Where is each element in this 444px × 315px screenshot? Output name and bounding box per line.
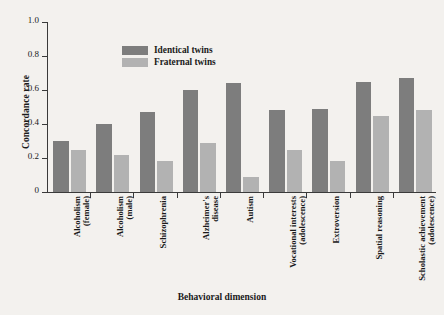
- legend-item-fraternal-twins: Fraternal twins: [122, 57, 216, 67]
- chart-legend: Identical twins Fraternal twins: [122, 45, 216, 69]
- plot-area: 00.20.40.60.81.0 Identical twins Fratern…: [47, 22, 436, 192]
- legend-label-fraternal-twins: Fraternal twins: [154, 57, 216, 67]
- bar-group: [393, 22, 436, 192]
- x-axis-title: Behavioral dimension: [0, 292, 444, 302]
- y-axis-tick-label: 0.6: [28, 83, 39, 93]
- bar-identical: [399, 78, 415, 192]
- bar-group: [47, 22, 90, 192]
- bar-fraternal: [287, 150, 303, 193]
- bar-group: [306, 22, 349, 192]
- bar-group: [350, 22, 393, 192]
- x-axis-category-label: Extroversion: [332, 196, 341, 284]
- x-axis-category-label: Alzheimer's disease: [202, 196, 221, 284]
- bar-identical: [53, 141, 69, 192]
- y-axis-tick-label: 0: [35, 185, 40, 195]
- twin-concordance-bar-chart: Concordance rate 00.20.40.60.81.0 Identi…: [0, 0, 444, 315]
- y-axis-tick-label: 0.4: [28, 117, 39, 127]
- bar-group: [220, 22, 263, 192]
- x-axis-category-label: Spatial reasoning: [375, 196, 384, 284]
- x-axis-line: [47, 192, 436, 193]
- x-axis-category-labels: Alcoholism (female)Alcoholism (male)Schi…: [47, 196, 436, 284]
- bar-fraternal: [71, 150, 87, 193]
- bar-fraternal: [114, 155, 130, 192]
- bar-fraternal: [157, 161, 173, 192]
- y-axis-tick: 0: [42, 192, 47, 193]
- x-axis-category-label: Vocational interests (adolescence): [289, 196, 308, 284]
- bar-identical: [312, 109, 328, 192]
- bar-identical: [269, 110, 285, 192]
- bar-fraternal: [243, 177, 259, 192]
- y-axis-tick-label: 0.8: [28, 49, 39, 59]
- legend-swatch-fraternal-twins: [122, 58, 148, 67]
- bar-series-container: [47, 22, 436, 192]
- legend-label-identical-twins: Identical twins: [154, 45, 213, 55]
- x-axis-category-label: Autism: [246, 196, 255, 284]
- x-axis-category-label: Scholastic achievement (adolescence): [418, 196, 437, 284]
- bar-fraternal: [330, 161, 346, 192]
- x-axis-category-label: Schizophrenia: [159, 196, 168, 284]
- y-axis-tick-label: 1.0: [28, 15, 39, 25]
- bar-fraternal: [200, 143, 216, 192]
- bar-group: [263, 22, 306, 192]
- bar-identical: [96, 124, 112, 192]
- bar-identical: [140, 112, 156, 192]
- y-axis-title: Concordance rate: [21, 42, 31, 182]
- legend-item-identical-twins: Identical twins: [122, 45, 216, 55]
- bar-identical: [226, 83, 242, 192]
- x-axis-category-label: Alcoholism (female): [73, 196, 92, 284]
- bar-identical: [183, 90, 199, 192]
- legend-swatch-identical-twins: [122, 46, 148, 55]
- bar-identical: [356, 82, 372, 193]
- bar-fraternal: [416, 110, 432, 192]
- x-axis-category-label: Alcoholism (male): [116, 196, 135, 284]
- y-axis-tick-label: 0.2: [28, 151, 39, 161]
- bar-fraternal: [373, 116, 389, 193]
